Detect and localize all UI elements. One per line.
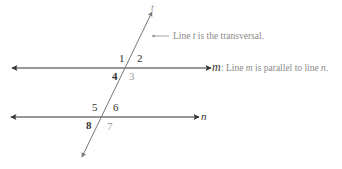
- label-t: t: [151, 2, 154, 13]
- angle-2: 2: [137, 53, 143, 64]
- parallel-note: : Line m is parallel to line n.: [221, 63, 328, 74]
- angle-6: 6: [113, 102, 119, 113]
- angle-7: 7: [107, 121, 113, 132]
- angle-8: 8: [86, 120, 92, 131]
- angle-5: 5: [92, 102, 98, 113]
- label-m: m: [212, 62, 221, 73]
- parallel-note-text: Line m is parallel to line n.: [226, 63, 328, 73]
- angle-3: 3: [129, 71, 135, 82]
- line-t-transversal: [82, 12, 152, 157]
- angle-4: 4: [112, 71, 118, 82]
- diagram-canvas: [0, 0, 342, 169]
- angle-1: 1: [119, 53, 125, 64]
- transversal-note: Line t is the transversal.: [173, 31, 264, 42]
- label-n: n: [201, 111, 207, 122]
